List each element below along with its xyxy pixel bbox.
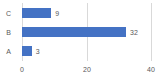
- y-axis-label-a: A: [0, 48, 17, 55]
- bar-chart: C B A 9 32 3 0 20 40: [0, 0, 163, 82]
- x-axis-tick-20: 20: [83, 66, 91, 73]
- bar-b[interactable]: [22, 27, 126, 37]
- bar-c[interactable]: [22, 8, 51, 18]
- bar-row-a: 3: [22, 42, 152, 61]
- bar-row-b: 32: [22, 22, 152, 41]
- plot-area: 9 32 3: [22, 3, 152, 61]
- bar-value-b: 32: [126, 28, 138, 35]
- x-axis-tick-40: 40: [147, 66, 155, 73]
- x-axis-tick-0: 0: [20, 66, 24, 73]
- y-axis-label-b: B: [0, 29, 17, 36]
- bar-row-c: 9: [22, 3, 152, 22]
- bar-value-a: 3: [32, 48, 40, 55]
- bar-a[interactable]: [22, 46, 32, 56]
- y-axis-label-c: C: [0, 9, 17, 16]
- bar-value-c: 9: [51, 9, 59, 16]
